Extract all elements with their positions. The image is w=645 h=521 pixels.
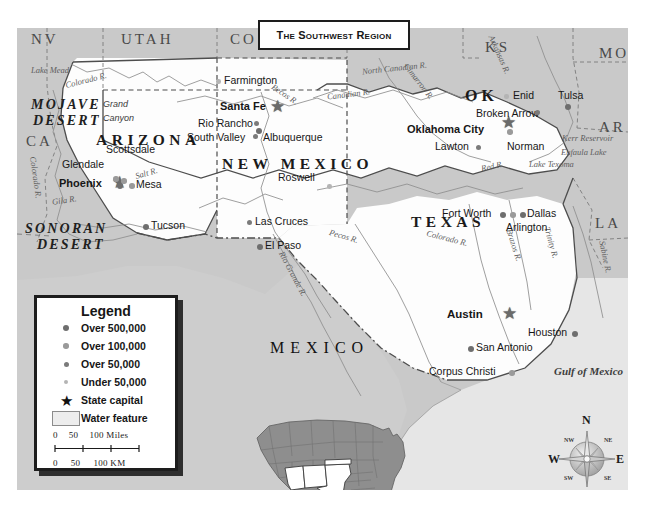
dot-medium-icon bbox=[51, 343, 81, 349]
city-label-phoenix[interactable]: Phoenix bbox=[59, 178, 102, 189]
city-dot-arlington[interactable] bbox=[510, 212, 516, 218]
city-label-tulsa[interactable]: Tulsa bbox=[558, 90, 583, 101]
compass-label-nw: NW bbox=[564, 437, 574, 443]
water-label-eufaula-lake: Eufaula Lake bbox=[561, 148, 607, 157]
compass-label-ne: NE bbox=[604, 437, 612, 443]
city-label-enid[interactable]: Enid bbox=[513, 90, 534, 101]
legend-label-over-50000: Over 50,000 bbox=[81, 358, 140, 370]
city-label-roswell[interactable]: Roswell bbox=[278, 172, 315, 183]
legend-row-over-500000[interactable]: Over 500,000 bbox=[37, 319, 175, 337]
city-dot-norman[interactable] bbox=[507, 129, 513, 135]
city-dot-lawton[interactable] bbox=[476, 145, 481, 150]
state-label-ok: OK bbox=[465, 88, 498, 104]
state-label-new-mexico: NEW MEXICO bbox=[222, 156, 373, 172]
city-label-rio-rancho[interactable]: Rio Rancho bbox=[198, 118, 253, 129]
city-dot-rio-rancho[interactable] bbox=[254, 121, 259, 126]
inset-highlight-new-mexico bbox=[303, 465, 327, 488]
compass-label-e: E bbox=[616, 452, 624, 467]
city-dot-las-cruces[interactable] bbox=[247, 220, 252, 225]
city-label-arlington[interactable]: Arlington bbox=[506, 222, 547, 233]
water-label-lake-texoma: Lake Texoma bbox=[529, 160, 574, 169]
physical-label-canyon: Canyon bbox=[103, 114, 134, 123]
state-label-nv: NV bbox=[31, 32, 59, 47]
city-label-san-antonio[interactable]: San Antonio bbox=[476, 342, 533, 353]
country-label-mexico: MEXICO bbox=[270, 340, 369, 356]
city-dot-roswell[interactable] bbox=[327, 184, 332, 189]
city-label-corpus-christi[interactable]: Corpus Christi bbox=[429, 366, 496, 377]
compass-center bbox=[584, 456, 590, 462]
locator-inset-map[interactable] bbox=[245, 416, 410, 490]
scale-miles-100: 100 Miles bbox=[89, 430, 128, 440]
city-dot-tulsa[interactable] bbox=[565, 104, 571, 110]
city-label-norman[interactable]: Norman bbox=[507, 141, 544, 152]
city-label-broken-arrow[interactable]: Broken Arrow bbox=[476, 108, 539, 119]
city-dot-mesa[interactable] bbox=[129, 183, 135, 189]
city-dot-el-paso[interactable] bbox=[257, 244, 263, 250]
city-label-mesa[interactable]: Mesa bbox=[136, 179, 162, 190]
compass-label-s: S bbox=[582, 489, 589, 490]
compass-label-w: W bbox=[548, 452, 560, 467]
city-dot-scottsdale[interactable] bbox=[121, 178, 127, 184]
city-label-scottsdale[interactable]: Scottsdale bbox=[106, 144, 155, 155]
legend-label-under-50000: Under 50,000 bbox=[81, 376, 146, 388]
legend-row-over-100000[interactable]: Over 100,000 bbox=[37, 337, 175, 355]
legend-label-state-capital: State capital bbox=[81, 394, 143, 406]
city-dot-dallas[interactable] bbox=[520, 212, 526, 218]
state-label-utah: UTAH bbox=[121, 32, 173, 47]
city-label-austin[interactable]: Austin bbox=[447, 309, 483, 321]
legend-label-over-500000: Over 500,000 bbox=[81, 322, 146, 334]
legend-label-over-100000: Over 100,000 bbox=[81, 340, 146, 352]
city-dot-phoenix[interactable] bbox=[117, 183, 123, 189]
inset-usa-svg bbox=[245, 416, 410, 490]
city-label-tucson[interactable]: Tucson bbox=[151, 220, 185, 231]
map-title-plaque: The Southwest Region bbox=[258, 20, 410, 50]
compass-rose[interactable]: N S W E NW NE SW SE bbox=[548, 413, 626, 490]
city-dot-fort-worth[interactable] bbox=[500, 212, 506, 218]
legend-row-state-capital[interactable]: ★ State capital bbox=[37, 391, 175, 409]
city-label-santa-fe[interactable]: Santa Fe bbox=[220, 101, 266, 112]
capital-star-austin: ★ bbox=[502, 305, 517, 322]
city-label-glendale[interactable]: Glendale bbox=[62, 159, 104, 170]
legend-row-water-feature[interactable]: Water feature bbox=[37, 409, 175, 427]
star-icon: ★ bbox=[51, 393, 81, 408]
city-dot-enid[interactable] bbox=[504, 94, 509, 99]
city-label-las-cruces[interactable]: Las Cruces bbox=[255, 216, 308, 227]
legend-row-over-50000[interactable]: Over 50,000 bbox=[37, 355, 175, 373]
city-label-farmington[interactable]: Farmington bbox=[224, 75, 277, 86]
city-dot-albuquerque[interactable] bbox=[256, 128, 262, 134]
city-dot-tucson[interactable] bbox=[143, 224, 149, 230]
scale-bar-group: 0 50 100 Miles 0 50 100 KM bbox=[37, 427, 175, 468]
city-label-fort-worth[interactable]: Fort Worth bbox=[442, 208, 491, 219]
physical-label-mojave: MOJAVE bbox=[31, 98, 101, 112]
dot-small-icon bbox=[51, 362, 81, 367]
city-label-south-valley[interactable]: South Valley bbox=[187, 132, 245, 143]
city-dot-farmington[interactable] bbox=[216, 79, 221, 84]
physical-label-sonoran: SONORAN bbox=[25, 222, 107, 236]
city-dot-san-antonio[interactable] bbox=[468, 346, 474, 352]
city-label-houston[interactable]: Houston bbox=[528, 327, 567, 338]
inset-highlight-oklahoma bbox=[325, 459, 351, 465]
scale-miles-50: 50 bbox=[69, 430, 79, 440]
legend-box: Legend Over 500,000 Over 100,000 Over 50… bbox=[34, 295, 178, 471]
physical-label-mojave-desert: DESERT bbox=[33, 114, 101, 128]
dot-large-icon bbox=[51, 325, 81, 331]
city-label-el-paso[interactable]: El Paso bbox=[265, 240, 301, 251]
city-dot-houston[interactable] bbox=[572, 331, 578, 337]
scale-bar-ruler bbox=[53, 444, 149, 453]
legend-row-under-50000[interactable]: Under 50,000 bbox=[37, 373, 175, 391]
city-dot-broken-arrow[interactable] bbox=[535, 110, 540, 115]
legend-label-water-feature: Water feature bbox=[81, 412, 148, 424]
city-dot-glendale[interactable] bbox=[113, 176, 119, 182]
city-label-albuquerque[interactable]: Albuquerque bbox=[263, 132, 323, 143]
dot-tiny-icon bbox=[51, 380, 81, 385]
city-dot-south-valley[interactable] bbox=[253, 134, 258, 139]
legend-panel[interactable]: Legend Over 500,000 Over 100,000 Over 50… bbox=[34, 295, 178, 471]
scale-km-100: 100 KM bbox=[93, 458, 125, 468]
city-label-dallas[interactable]: Dallas bbox=[527, 208, 556, 219]
state-label-ca: CA bbox=[26, 134, 53, 149]
compass-label-sw: SW bbox=[564, 475, 573, 481]
water-label-kerr-reservoir: Kerr Reservoir bbox=[562, 134, 613, 143]
city-label-lawton[interactable]: Lawton bbox=[435, 141, 469, 152]
city-label-oklahoma-city[interactable]: Oklahoma City bbox=[407, 124, 484, 135]
city-dot-corpus-christi[interactable] bbox=[509, 370, 515, 376]
